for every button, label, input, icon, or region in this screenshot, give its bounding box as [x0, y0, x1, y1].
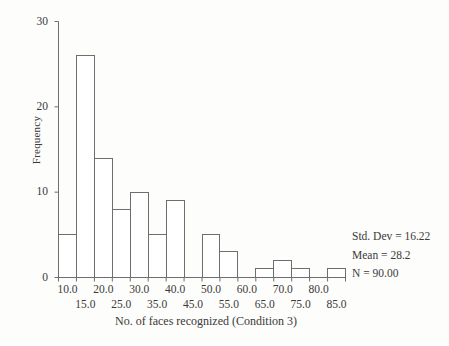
x-axis-tick-label: 45.0 — [173, 299, 213, 311]
histogram-bar — [148, 235, 166, 278]
histogram-bar — [166, 201, 184, 278]
x-axis-tick-label: 80.0 — [299, 284, 339, 296]
histogram-bar — [94, 158, 112, 277]
x-axis-tick-label: 85.0 — [317, 299, 357, 311]
histogram-bar — [202, 235, 220, 278]
x-axis-tick-label: 10.0 — [47, 284, 87, 296]
x-axis-tick-label: 60.0 — [227, 284, 267, 296]
histogram-bar — [292, 269, 310, 278]
std-dev-text: Std. Dev = 16.22 — [352, 227, 430, 246]
histogram-bar — [59, 235, 77, 278]
mean-text: Mean = 28.2 — [352, 246, 430, 265]
histogram-bar — [256, 269, 274, 278]
statistics-annotation: Std. Dev = 16.22 Mean = 28.2 N = 90.00 — [352, 227, 430, 283]
histogram-bar — [112, 209, 130, 277]
histogram-bar — [130, 192, 148, 277]
x-axis-tick-label: 55.0 — [209, 299, 249, 311]
histogram-bar — [274, 260, 292, 277]
x-axis-tick-label: 40.0 — [155, 284, 195, 296]
histogram-bar — [76, 56, 94, 278]
x-axis-tick-label: 75.0 — [281, 299, 321, 311]
x-axis-tick-label: 70.0 — [263, 284, 303, 296]
histogram-bar — [328, 269, 346, 278]
n-text: N = 90.00 — [352, 264, 430, 283]
x-axis-tick-label: 65.0 — [245, 299, 285, 311]
x-axis-tick-label: 15.0 — [65, 299, 105, 311]
x-axis-tick-label: 50.0 — [191, 284, 231, 296]
x-axis-title: No. of faces recognized (Condition 3) — [0, 314, 412, 329]
histogram-bar — [220, 252, 238, 278]
x-axis-tick-label: 25.0 — [101, 299, 141, 311]
x-axis-tick-label: 35.0 — [137, 299, 177, 311]
histogram-chart: Frequency 0102030 10.015.020.025.030.035… — [0, 0, 449, 346]
x-axis-tick-label: 30.0 — [119, 284, 159, 296]
x-axis-tick-label: 20.0 — [83, 284, 123, 296]
